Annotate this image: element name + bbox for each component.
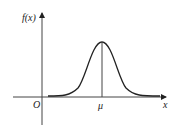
x-axis-label: x	[162, 99, 168, 110]
normal-curve-diagram: f(x) O μ x	[0, 0, 181, 140]
y-axis-label: f(x)	[22, 12, 37, 24]
origin-label: O	[33, 99, 40, 110]
mean-label: μ	[97, 100, 103, 111]
bell-curve	[48, 42, 160, 96]
